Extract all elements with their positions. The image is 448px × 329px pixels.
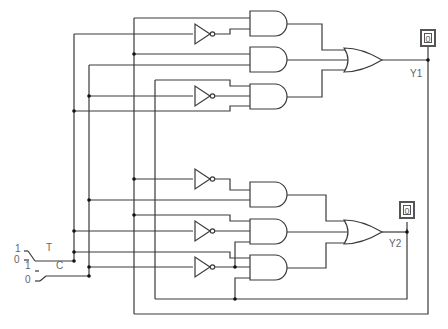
not-gate-1 xyxy=(195,24,215,44)
input-t-label: T xyxy=(46,243,52,253)
switch-c-label-1: 1 xyxy=(25,261,31,271)
probe-y1: 0 xyxy=(420,29,436,47)
or-gate-y2 xyxy=(344,220,382,244)
output-y1-label: Y1 xyxy=(410,69,422,79)
and-gate-2 xyxy=(250,47,287,72)
output-y2-label: Y2 xyxy=(389,239,401,249)
switch-t-label-1: 1 xyxy=(15,244,21,254)
or-gate-y1 xyxy=(344,48,382,72)
circuit-diagram xyxy=(0,0,448,329)
and-gate-1 xyxy=(250,11,287,36)
probe-y2: 0 xyxy=(399,201,415,219)
probe-y1-value: 0 xyxy=(424,33,432,43)
not-gate-3 xyxy=(195,169,215,189)
switch-c[interactable] xyxy=(35,271,89,281)
not-gate-5 xyxy=(195,257,215,277)
switch-t-label-0: 0 xyxy=(14,255,20,265)
input-c-label: C xyxy=(56,261,63,271)
and-gate-6 xyxy=(250,255,287,280)
not-gate-2 xyxy=(195,86,215,106)
probe-y2-value: 0 xyxy=(403,205,411,215)
and-gate-4 xyxy=(250,182,287,207)
and-gate-5 xyxy=(250,219,287,244)
and-gate-3 xyxy=(250,84,287,109)
switch-c-label-0: 0 xyxy=(25,275,31,285)
not-gate-4 xyxy=(195,221,215,241)
